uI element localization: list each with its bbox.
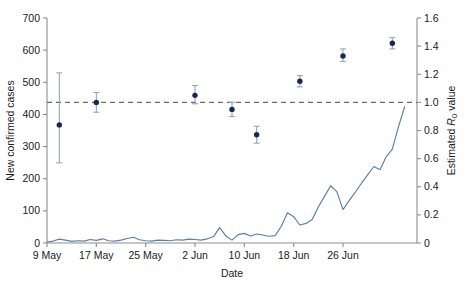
x-axis-tick-label: 26 Jun	[327, 249, 359, 261]
chart-figure: 0100200300400500600700New confirmed case…	[0, 0, 466, 286]
y-axis-left-tick-label: 600	[22, 44, 40, 56]
y-axis-right-tick-label: 0.8	[424, 124, 439, 136]
x-axis-tick-label: 17 May	[79, 249, 114, 261]
y-axis-right-tick-label: 1.0	[424, 96, 439, 108]
y-axis-left-title: New confirmed cases	[4, 80, 16, 180]
y-axis-right-tick-label: 0	[424, 237, 430, 249]
x-axis-tick-label: 2 Jun	[182, 249, 208, 261]
y-axis-left-tick-label: 100	[22, 204, 40, 216]
data-point-r0	[254, 132, 259, 137]
y-axis-left-tick-label: 500	[22, 76, 40, 88]
data-point-r0	[297, 79, 302, 84]
data-point-r0	[57, 122, 62, 127]
data-point-r0	[390, 41, 395, 46]
y-axis-right-title: Estimated R0 value	[445, 86, 459, 176]
y-axis-right-tick-label: 1.6	[424, 12, 439, 24]
y-axis-left-tick-label: 0	[34, 237, 40, 249]
y-axis-right-tick-label: 0.4	[424, 180, 439, 192]
y-axis-right-tick-label: 0.2	[424, 208, 439, 220]
dual-axis-line-chart: 0100200300400500600700New confirmed case…	[0, 0, 466, 286]
x-axis-tick-label: 10 Jun	[229, 249, 261, 261]
y-axis-right-tick-label: 1.4	[424, 40, 439, 52]
y-axis-left-tick-label: 300	[22, 140, 40, 152]
data-point-r0	[94, 100, 99, 105]
data-point-r0	[340, 53, 345, 58]
x-axis-title: Date	[221, 267, 243, 279]
x-axis-tick-label: 18 Jun	[278, 249, 310, 261]
y-axis-right-tick-label: 1.2	[424, 68, 439, 80]
x-axis-tick-label: 9 May	[33, 249, 62, 261]
y-axis-left-tick-label: 400	[22, 108, 40, 120]
y-axis-left-tick-label: 200	[22, 172, 40, 184]
data-point-r0	[192, 93, 197, 98]
x-axis-tick-label: 25 May	[128, 249, 163, 261]
series-line-new-confirmed-cases	[47, 107, 405, 242]
y-axis-right-tick-label: 0.6	[424, 152, 439, 164]
y-axis-left-tick-label: 700	[22, 12, 40, 24]
data-point-r0	[229, 107, 234, 112]
